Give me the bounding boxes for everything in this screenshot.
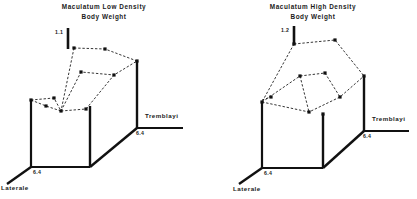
box-edge-bottom-right-low-density [90,128,137,167]
laterale-axis-low-density [7,167,31,184]
tremblayi-axis-label-high-density: Tremblayi [372,115,405,122]
figure-container: Maculatum Low Density Body Weight [0,0,417,199]
tremblayi-tick-label-high-density: 6.4 [363,133,371,139]
chart-panel-low-density: Maculatum Low Density Body Weight [0,0,208,199]
plot-svg-high-density [209,0,417,199]
laterale-axis-label-low-density: Laterale [1,184,29,191]
mesh-node [44,104,47,107]
mesh-node [269,95,272,98]
mesh-node [59,109,62,112]
tremblayi-tick-label-low-density: 6.4 [136,130,144,136]
mesh-node [112,73,115,76]
mesh-node [323,71,326,74]
mesh-node [333,38,336,41]
mesh-node [260,100,263,103]
mesh-edge-inner-fold [61,72,114,111]
mesh-edge-left-drop [262,44,294,102]
mesh-node [135,59,138,62]
z-axis-max-label-low-density: 1.1 [55,29,63,35]
mesh-node [292,42,295,45]
mesh-edge-left-drop [61,48,74,111]
tremblayi-axis-label-low-density: Tremblayi [145,112,178,119]
mesh-nodes-low-density [29,46,138,112]
mesh-node [321,112,324,115]
laterale-axis-high-density [239,168,262,184]
mesh-edge-top-back [294,40,364,76]
mesh-edge-inner-left [300,76,309,112]
laterale-tick-label-high-density: 6.4 [264,170,272,176]
mesh-edge-front-right [61,61,137,111]
mesh-edge-front-right [262,76,364,112]
mesh-nodes-high-density [260,38,365,115]
mesh-node [29,98,32,101]
mesh-node [52,96,55,99]
mesh-edge-inner-right [325,73,340,97]
axes-group-low-density [7,28,183,184]
laterale-tick-label-low-density: 6.4 [33,169,41,175]
mesh-node [338,95,341,98]
mesh-node [103,47,106,50]
mesh-node [362,74,365,77]
box-edge-bottom-right-high-density [323,131,364,168]
mesh-node [84,107,87,110]
mesh-node [298,74,301,77]
mesh-node [72,46,75,49]
laterale-axis-label-high-density: Laterale [233,185,261,192]
chart-panel-high-density: Maculatum High Density Body Weight [209,0,417,199]
plot-svg-low-density [0,0,208,199]
z-axis-max-label-high-density: 1.2 [281,27,289,33]
response-surface-mesh-low-density [31,48,137,111]
response-surface-mesh-high-density [262,40,364,112]
mesh-node [79,70,82,73]
mesh-node [307,110,310,113]
